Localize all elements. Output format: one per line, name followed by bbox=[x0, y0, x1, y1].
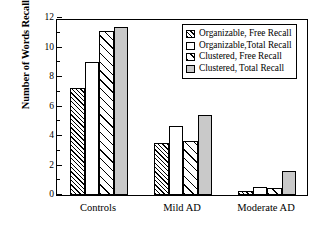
x-axis-group-label: Moderate AD bbox=[237, 202, 294, 213]
y-axis-tick: 12 bbox=[57, 17, 62, 18]
y-axis-minor-tick bbox=[57, 91, 60, 92]
y-axis-tick-label: 6 bbox=[49, 102, 54, 112]
y-axis-minor-tick bbox=[57, 61, 60, 62]
bar bbox=[85, 62, 100, 195]
bar bbox=[267, 188, 282, 195]
bar bbox=[114, 27, 129, 195]
bar bbox=[238, 191, 253, 195]
x-axis-group-label: Controls bbox=[80, 202, 116, 213]
legend-swatch-clustered-total-recall-icon bbox=[186, 65, 195, 73]
legend-swatch-organizable-total-recall-icon bbox=[186, 42, 195, 50]
legend-item: Organizable,Total Recall bbox=[186, 40, 292, 51]
y-axis-tick: 10 bbox=[57, 47, 62, 48]
y-axis-title: Number of Words Recalled bbox=[20, 0, 31, 135]
bar bbox=[169, 126, 184, 195]
bar bbox=[154, 143, 169, 195]
legend: Organizable, Free Recall Organizable,Tot… bbox=[182, 24, 297, 79]
y-axis-minor-tick bbox=[57, 150, 60, 151]
legend-swatch-clustered-free-recall-icon bbox=[186, 53, 195, 61]
y-axis-tick-label: 8 bbox=[49, 72, 54, 82]
legend-item: Organizable, Free Recall bbox=[186, 29, 292, 40]
y-axis-tick-label: 10 bbox=[45, 43, 55, 53]
y-axis-tick: 8 bbox=[57, 76, 62, 77]
y-axis-tick-label: 4 bbox=[49, 131, 54, 141]
bar bbox=[282, 171, 297, 195]
y-axis-tick: 6 bbox=[57, 106, 62, 107]
legend-label: Organizable,Total Recall bbox=[199, 41, 292, 50]
bar bbox=[99, 31, 114, 195]
x-axis-group-label: Mild AD bbox=[163, 202, 201, 213]
y-axis-tick-label: 12 bbox=[45, 13, 55, 23]
y-axis-tick: 0 bbox=[57, 194, 62, 195]
legend-item: Clustered, Free Recall bbox=[186, 52, 292, 63]
y-axis-tick-label: 2 bbox=[49, 161, 54, 171]
legend-item: Clustered, Total Recall bbox=[186, 63, 292, 74]
y-axis-minor-tick bbox=[57, 120, 60, 121]
bar bbox=[183, 141, 198, 195]
y-axis-minor-tick bbox=[57, 179, 60, 180]
bar bbox=[198, 115, 213, 195]
legend-label: Organizable, Free Recall bbox=[199, 29, 292, 38]
bar-chart-figure: Number of Words Recalled 024681012 Organ… bbox=[0, 0, 323, 238]
bar bbox=[253, 187, 268, 195]
y-axis-tick: 2 bbox=[57, 165, 62, 166]
legend-label: Clustered, Free Recall bbox=[199, 52, 282, 61]
legend-swatch-organizable-free-recall-icon bbox=[186, 30, 195, 38]
bar bbox=[70, 88, 85, 195]
y-axis-minor-tick bbox=[57, 32, 60, 33]
legend-label: Clustered, Total Recall bbox=[199, 64, 284, 73]
y-axis-tick-label: 0 bbox=[49, 190, 54, 200]
y-axis-tick: 4 bbox=[57, 135, 62, 136]
